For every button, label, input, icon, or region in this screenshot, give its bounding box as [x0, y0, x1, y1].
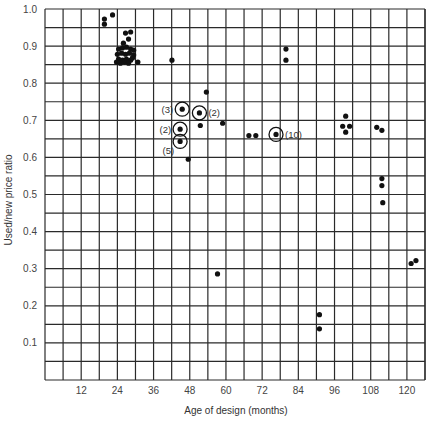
data-point — [347, 124, 352, 129]
data-point — [379, 176, 384, 181]
y-tick-label: 0.9 — [23, 41, 37, 52]
y-tick-label: 0.3 — [23, 263, 37, 274]
x-axis-ticks: 1224364860728496108120 — [76, 385, 416, 396]
data-point — [130, 55, 135, 60]
data-point — [283, 58, 288, 63]
x-tick-label: 12 — [76, 385, 88, 396]
data-point — [198, 123, 203, 128]
x-tick-label: 84 — [293, 385, 305, 396]
x-tick-label: 36 — [148, 385, 160, 396]
x-axis-label: Age of design (months) — [184, 405, 287, 416]
data-point — [379, 128, 384, 133]
data-point — [204, 90, 209, 95]
data-point — [273, 132, 278, 137]
circled-data-point: (2) — [159, 122, 187, 136]
data-point — [343, 130, 348, 135]
y-axis-label: Used/new price ratio — [3, 154, 14, 246]
data-point — [178, 139, 183, 144]
circled-data-point: (3) — [162, 102, 190, 116]
data-point — [340, 124, 345, 129]
data-point — [220, 121, 225, 126]
point-count-annotation: (5) — [162, 145, 174, 156]
x-tick-label: 24 — [112, 385, 124, 396]
y-tick-label: 0.8 — [23, 78, 37, 89]
data-point — [409, 261, 414, 266]
y-tick-label: 0.4 — [23, 226, 37, 237]
data-point — [180, 107, 185, 112]
point-count-annotation: (2) — [208, 107, 220, 118]
data-point — [169, 58, 174, 63]
point-count-annotation: (2) — [159, 124, 171, 135]
data-point — [413, 258, 418, 263]
data-point — [246, 133, 251, 138]
data-point — [178, 127, 183, 132]
data-point — [253, 133, 258, 138]
data-point — [123, 31, 128, 36]
x-tick-label: 72 — [257, 385, 269, 396]
data-point — [110, 12, 115, 17]
x-tick-label: 120 — [399, 385, 416, 396]
data-point — [126, 36, 131, 41]
point-count-annotation: (10) — [285, 129, 302, 140]
data-point — [380, 200, 385, 205]
data-point — [379, 183, 384, 188]
scatter-chart: 1224364860728496108120 0.10.20.30.40.50.… — [0, 0, 429, 424]
data-point — [197, 110, 202, 115]
circled-data-point: (5) — [162, 134, 187, 156]
data-point — [283, 46, 288, 51]
data-point — [102, 22, 107, 27]
y-tick-label: 0.7 — [23, 115, 37, 126]
y-axis-ticks: 0.10.20.30.40.50.60.70.80.91.0 — [23, 4, 37, 349]
data-point — [102, 16, 107, 21]
x-tick-label: 108 — [362, 385, 379, 396]
y-tick-label: 0.6 — [23, 152, 37, 163]
x-tick-label: 60 — [220, 385, 232, 396]
y-tick-label: 0.5 — [23, 189, 37, 200]
data-point — [135, 59, 140, 64]
y-tick-label: 0.1 — [23, 337, 37, 348]
y-tick-label: 1.0 — [23, 4, 37, 15]
data-point — [215, 271, 220, 276]
data-point — [126, 61, 131, 66]
data-point — [317, 326, 322, 331]
point-count-annotation: (3) — [162, 104, 174, 115]
data-point — [374, 125, 379, 130]
x-tick-label: 48 — [184, 385, 196, 396]
data-point — [317, 312, 322, 317]
y-tick-label: 0.2 — [23, 300, 37, 311]
data-point — [131, 48, 136, 53]
x-tick-label: 96 — [329, 385, 341, 396]
data-point — [343, 114, 348, 119]
data-point — [186, 157, 191, 162]
plot-grid — [45, 9, 425, 380]
data-point — [128, 29, 133, 34]
circled-data-point: (2) — [192, 106, 220, 120]
